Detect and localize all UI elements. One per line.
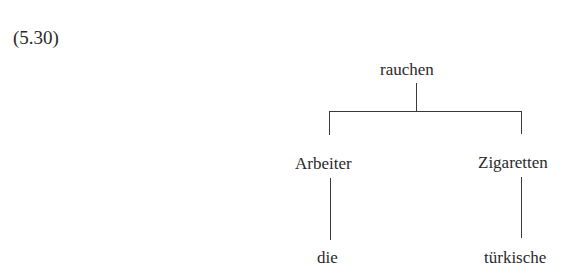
- zigaretten-dependent-line: [521, 177, 522, 238]
- node-zigaretten: Zigaretten: [478, 154, 548, 171]
- arbeiter-dependent-line: [330, 178, 331, 240]
- branch-horizontal-line: [329, 111, 522, 112]
- right-branch-line: [521, 111, 522, 134]
- example-number: (5.30): [13, 28, 59, 47]
- node-arbeiter: Arbeiter: [295, 155, 352, 172]
- root-stem-line: [416, 83, 417, 111]
- node-root: rauchen: [380, 61, 434, 78]
- node-tuerkische: türkische: [484, 249, 546, 266]
- left-branch-line: [329, 111, 330, 135]
- node-die: die: [317, 249, 338, 266]
